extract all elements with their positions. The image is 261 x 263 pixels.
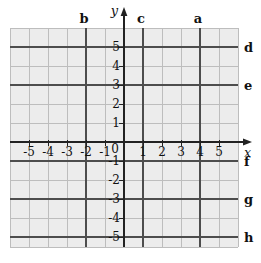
- x-tick-label: 4: [196, 145, 204, 159]
- line-label-h: h: [244, 230, 254, 245]
- y-tick-label: -1: [108, 154, 120, 168]
- line-label-a: a: [194, 11, 203, 26]
- y-axis-arrow: [121, 7, 128, 16]
- origin-label: 0: [111, 142, 119, 156]
- x-tick-label: 1: [139, 145, 147, 159]
- x-axis-arrow: [243, 139, 252, 146]
- y-tick-label: 5: [112, 40, 120, 54]
- y-tick-label: 4: [112, 59, 120, 73]
- y-tick-label: -5: [108, 230, 120, 244]
- line-label-e: e: [244, 78, 252, 93]
- line-label-b: b: [79, 11, 88, 26]
- x-axis-label: x: [244, 146, 251, 160]
- x-tick-label: -3: [61, 145, 73, 159]
- x-tick-label: 5: [215, 145, 223, 159]
- y-tick-label: 3: [112, 78, 120, 92]
- line-label-g: g: [244, 192, 253, 207]
- y-tick-label: -4: [108, 211, 120, 225]
- x-tick-label: -5: [23, 145, 35, 159]
- coordinate-plane-figure: bcadefgh-5-4-3-2-11234554321-1-2-3-4-50y…: [0, 0, 261, 263]
- line-label-d: d: [244, 40, 253, 55]
- x-tick-label: -4: [42, 145, 54, 159]
- coordinate-plane: bcadefgh-5-4-3-2-11234554321-1-2-3-4-50y…: [0, 0, 261, 263]
- y-tick-label: 1: [112, 116, 120, 130]
- x-tick-label: 2: [158, 145, 166, 159]
- x-tick-label: -2: [80, 145, 92, 159]
- y-tick-label: -2: [108, 173, 120, 187]
- y-tick-label: 2: [112, 97, 120, 111]
- line-label-c: c: [137, 11, 145, 26]
- x-tick-label: 3: [177, 145, 185, 159]
- y-tick-label: -3: [108, 192, 120, 206]
- y-axis-label: y: [110, 3, 119, 18]
